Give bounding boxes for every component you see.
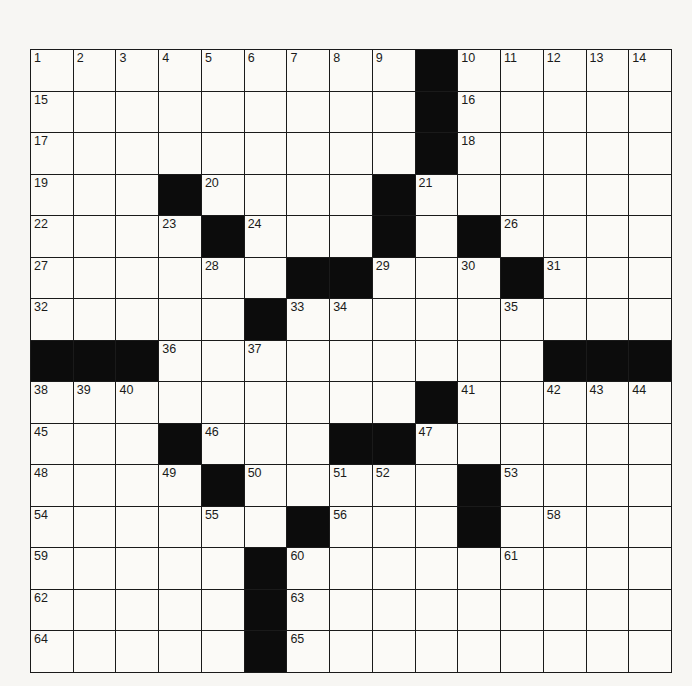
grid-cell[interactable]: 55 [202,507,244,548]
grid-cell[interactable]: 65 [287,631,329,672]
grid-cell[interactable]: 34 [330,299,372,340]
grid-cell[interactable] [629,258,671,299]
grid-cell[interactable] [116,507,158,548]
grid-cell[interactable]: 17 [31,133,73,174]
grid-cell[interactable] [245,92,287,133]
grid-cell[interactable]: 26 [501,216,543,257]
grid-cell[interactable]: 48 [31,465,73,506]
grid-cell[interactable] [458,631,500,672]
grid-cell[interactable] [629,548,671,589]
grid-cell[interactable]: 41 [458,382,500,423]
grid-cell[interactable]: 15 [31,92,73,133]
grid-cell[interactable] [373,382,415,423]
grid-cell[interactable]: 18 [458,133,500,174]
grid-cell[interactable]: 27 [31,258,73,299]
grid-cell[interactable] [159,133,201,174]
grid-cell[interactable] [74,631,116,672]
grid-cell[interactable] [287,424,329,465]
grid-cell[interactable] [116,590,158,631]
grid-cell[interactable] [330,382,372,423]
grid-cell[interactable] [373,92,415,133]
grid-cell[interactable] [116,631,158,672]
grid-cell[interactable] [587,548,629,589]
grid-cell[interactable]: 64 [31,631,73,672]
grid-cell[interactable]: 8 [330,50,372,91]
grid-cell[interactable]: 4 [159,50,201,91]
grid-cell[interactable] [202,590,244,631]
grid-cell[interactable] [373,133,415,174]
grid-cell[interactable] [74,424,116,465]
grid-cell[interactable] [287,465,329,506]
grid-cell[interactable]: 3 [116,50,158,91]
grid-cell[interactable]: 39 [74,382,116,423]
grid-cell[interactable] [544,299,586,340]
grid-cell[interactable] [501,175,543,216]
grid-cell[interactable] [587,465,629,506]
grid-cell[interactable] [544,631,586,672]
grid-cell[interactable]: 52 [373,465,415,506]
grid-cell[interactable] [373,548,415,589]
grid-cell[interactable] [116,548,158,589]
grid-cell[interactable]: 7 [287,50,329,91]
grid-cell[interactable]: 35 [501,299,543,340]
grid-cell[interactable]: 63 [287,590,329,631]
grid-cell[interactable] [587,424,629,465]
grid-cell[interactable]: 58 [544,507,586,548]
grid-cell[interactable] [544,133,586,174]
grid-cell[interactable] [159,548,201,589]
grid-cell[interactable] [245,424,287,465]
grid-cell[interactable] [159,258,201,299]
grid-cell[interactable] [245,382,287,423]
grid-cell[interactable]: 16 [458,92,500,133]
grid-cell[interactable] [458,341,500,382]
grid-cell[interactable] [629,133,671,174]
grid-cell[interactable] [416,631,458,672]
grid-cell[interactable] [74,465,116,506]
grid-cell[interactable]: 45 [31,424,73,465]
grid-cell[interactable] [629,299,671,340]
grid-cell[interactable] [458,424,500,465]
grid-cell[interactable] [245,133,287,174]
grid-cell[interactable] [116,175,158,216]
grid-cell[interactable]: 22 [31,216,73,257]
grid-cell[interactable] [544,548,586,589]
grid-cell[interactable] [159,507,201,548]
grid-cell[interactable]: 61 [501,548,543,589]
grid-cell[interactable] [330,590,372,631]
grid-cell[interactable] [116,299,158,340]
grid-cell[interactable]: 43 [587,382,629,423]
grid-cell[interactable]: 50 [245,465,287,506]
grid-cell[interactable]: 13 [587,50,629,91]
grid-cell[interactable] [544,216,586,257]
grid-cell[interactable] [587,631,629,672]
grid-cell[interactable] [287,133,329,174]
grid-cell[interactable]: 12 [544,50,586,91]
grid-cell[interactable] [330,175,372,216]
grid-cell[interactable]: 46 [202,424,244,465]
grid-cell[interactable] [74,258,116,299]
grid-cell[interactable] [587,175,629,216]
grid-cell[interactable] [501,133,543,174]
grid-cell[interactable] [501,507,543,548]
grid-cell[interactable] [330,133,372,174]
grid-cell[interactable] [116,258,158,299]
grid-cell[interactable]: 36 [159,341,201,382]
grid-cell[interactable] [501,92,543,133]
grid-cell[interactable] [330,216,372,257]
grid-cell[interactable]: 31 [544,258,586,299]
grid-cell[interactable] [245,175,287,216]
grid-cell[interactable]: 24 [245,216,287,257]
grid-cell[interactable] [629,631,671,672]
grid-cell[interactable] [373,341,415,382]
grid-cell[interactable] [629,590,671,631]
grid-cell[interactable] [373,507,415,548]
grid-cell[interactable]: 21 [416,175,458,216]
grid-cell[interactable] [629,465,671,506]
grid-cell[interactable] [629,216,671,257]
grid-cell[interactable] [159,631,201,672]
grid-cell[interactable]: 5 [202,50,244,91]
grid-cell[interactable] [587,216,629,257]
grid-cell[interactable] [287,341,329,382]
grid-cell[interactable] [202,92,244,133]
grid-cell[interactable] [287,216,329,257]
